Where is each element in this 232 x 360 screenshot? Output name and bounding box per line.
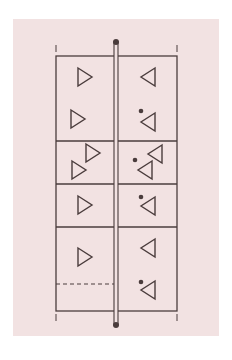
ball-dot-icon <box>139 280 144 285</box>
net-post-bottom-icon <box>113 322 119 328</box>
ball-dot-icon <box>139 195 144 200</box>
player-triangle-left-icon <box>141 239 155 257</box>
player-triangle-right-icon <box>86 144 100 162</box>
player-triangle-left-icon <box>141 197 155 215</box>
player-triangle-right-icon <box>72 161 86 179</box>
player-triangle-right-icon <box>78 248 92 266</box>
court-diagram <box>0 0 232 360</box>
player-triangle-left-icon <box>138 161 152 179</box>
player-triangle-left-icon <box>141 68 155 86</box>
player-triangle-right-icon <box>71 110 85 128</box>
player-triangle-left-icon <box>141 281 155 299</box>
player-triangle-left-icon <box>141 113 155 131</box>
net-pole <box>114 42 118 325</box>
player-triangle-left-icon <box>148 145 162 163</box>
player-triangle-right-icon <box>78 196 92 214</box>
ball-dot-icon <box>133 158 138 163</box>
ball-dot-icon <box>139 109 144 114</box>
net-post-top-icon <box>113 39 119 45</box>
player-triangle-right-icon <box>78 68 92 86</box>
